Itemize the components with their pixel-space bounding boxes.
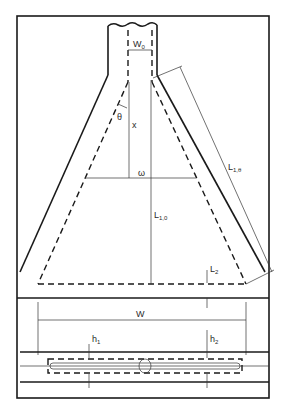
h1-label: h1 bbox=[92, 334, 101, 345]
nozzle-diagram: W0 θ x ω L1,0 L1,θ L2 W h1 h2 bbox=[0, 0, 290, 409]
x-label: x bbox=[132, 120, 137, 130]
l1theta-label: L1,θ bbox=[228, 162, 242, 173]
left-flank bbox=[20, 75, 108, 272]
right-flank bbox=[157, 75, 265, 272]
w0-label: W0 bbox=[133, 39, 146, 50]
theta-arc bbox=[118, 104, 127, 108]
break-line bbox=[108, 23, 157, 27]
omega-label: ω bbox=[138, 168, 145, 178]
theta-label: θ bbox=[117, 112, 122, 122]
h2-label: h2 bbox=[210, 334, 219, 345]
cavity-left-edge bbox=[38, 82, 128, 284]
outer-frame bbox=[17, 16, 269, 398]
l10-label: L1,0 bbox=[154, 210, 168, 221]
l2-label: L2 bbox=[210, 264, 219, 275]
w-label: W bbox=[136, 309, 145, 319]
